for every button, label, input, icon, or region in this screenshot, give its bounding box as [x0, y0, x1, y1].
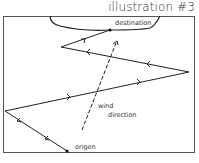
arrowhead-icons [17, 39, 150, 140]
destination-label: destination [115, 19, 151, 27]
wind-label-line1: wind [98, 102, 113, 110]
destination-dot [108, 28, 111, 31]
tacking-diagram: destination wind direction origen [0, 0, 199, 163]
frame [4, 17, 195, 153]
wind-label-line2: direction [108, 111, 137, 119]
origin-dot [65, 149, 68, 152]
origin-label: origen [75, 143, 96, 151]
